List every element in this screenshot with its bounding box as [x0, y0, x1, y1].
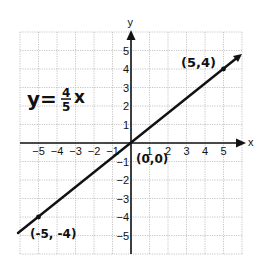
- x-tick-label: −5: [32, 145, 45, 157]
- x-tick-labels: −5−4−3−2−112345: [32, 145, 226, 157]
- y-tick-label: −4: [116, 211, 129, 223]
- x-tick-label: 4: [202, 145, 208, 157]
- y-tick-label: 3: [123, 82, 129, 94]
- equation-lhs: y=: [27, 87, 57, 111]
- equation-denominator: 5: [62, 100, 70, 114]
- equation-var: x: [74, 87, 85, 107]
- point-neg5-neg4: [36, 215, 41, 220]
- y-tick-label: −1: [116, 156, 129, 168]
- point-5-4: [221, 67, 226, 72]
- x-axis-arrow-icon: [236, 139, 246, 148]
- y-tick-label: 5: [123, 45, 129, 57]
- y-axis-label: y: [128, 16, 134, 28]
- equation-numerator: 4: [62, 86, 70, 100]
- x-tick-label: 3: [183, 145, 189, 157]
- y-tick-label: −3: [116, 193, 129, 205]
- y-axis-arrow-icon: [127, 30, 136, 40]
- y-tick-label: 1: [123, 119, 129, 131]
- x-tick-label: 5: [220, 145, 226, 157]
- x-tick-label: −3: [69, 145, 82, 157]
- annotation-origin: (0,0): [136, 152, 168, 166]
- y-tick-label: 4: [123, 63, 129, 75]
- coordinate-plane: x y −5−4−3−2−112345 54321−1−2−3−4−5 y= 4…: [0, 0, 262, 262]
- y-tick-label: −5: [116, 230, 129, 242]
- x-tick-label: −4: [51, 145, 64, 157]
- y-tick-label: 2: [123, 100, 129, 112]
- annotation-neg5-neg4: (-5, -4): [30, 227, 76, 241]
- annotation-5-4: (5,4): [181, 55, 216, 70]
- x-tick-label: −2: [88, 145, 101, 157]
- x-axis-label: x: [248, 136, 254, 148]
- y-tick-label: −2: [116, 174, 129, 186]
